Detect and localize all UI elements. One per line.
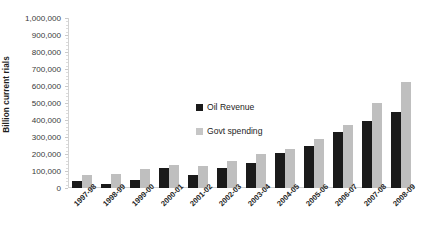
y-axis-tick-label: 700,000 [32,65,61,74]
y-axis-minor-tick-mark [66,106,68,107]
y-axis-minor-tick-mark [66,113,68,114]
y-axis-minor-tick-mark [66,117,68,118]
y-axis-minor-tick-mark [66,83,68,84]
y-axis-minor-tick-mark [66,62,68,63]
y-axis-tick-label: 500,000 [32,99,61,108]
x-axis-tick-labels: 1997-981998-991999-002000-012001-022002-… [68,190,415,243]
x-axis-tick-cell: 2003-04 [242,190,271,243]
y-axis-minor-tick-mark [66,144,68,145]
bar-group [328,18,357,188]
bar-oil-revenue [72,181,82,188]
y-axis-minor-tick-mark [66,181,68,182]
y-axis-minor-tick-mark [66,123,68,124]
y-axis-minor-tick-mark [66,157,68,158]
bar-govt-spending [401,82,411,188]
bar-chart: Billion current rials 1,000,000900,00080… [0,0,423,243]
y-axis-minor-tick-mark [66,38,68,39]
y-axis-minor-tick-mark [66,76,68,77]
bar-oil-revenue [391,112,401,189]
y-axis-minor-tick-mark [66,66,68,67]
bar-group [386,18,415,188]
y-axis-minor-tick-mark [66,32,68,33]
bar-oil-revenue [275,153,285,188]
bar-oil-revenue [101,184,111,188]
bar-group [270,18,299,188]
y-axis-minor-tick-mark [66,49,68,50]
x-axis-tick-cell: 2005-06 [299,190,328,243]
legend-item-govt-spending: Govt spending [196,126,262,136]
y-axis-tick-mark [65,103,68,104]
y-axis-tick-mark [65,171,68,172]
y-axis-tick-mark [65,69,68,70]
y-axis-minor-tick-mark [66,151,68,152]
y-axis-tick-label: 800,000 [32,48,61,57]
bar-govt-spending [314,139,324,188]
y-axis-minor-tick-mark [66,110,68,111]
y-axis-minor-tick-mark [66,100,68,101]
y-axis-minor-tick-mark [66,28,68,29]
y-axis-tick-mark [65,86,68,87]
bar-group [68,18,97,188]
x-axis-tick-cell: 2002-03 [213,190,242,243]
x-axis-tick-cell: 2001-02 [184,190,213,243]
y-axis-minor-tick-mark [66,130,68,131]
y-axis-tick-label: 200,000 [32,150,61,159]
y-axis-tick-label: 300,000 [32,133,61,142]
legend-label-govt-spending: Govt spending [207,126,262,136]
y-axis-minor-tick-mark [66,42,68,43]
y-axis-minor-tick-mark [66,127,68,128]
y-axis-tick-label: 1,000,000 [25,14,61,23]
bar-group [155,18,184,188]
bar-oil-revenue [130,180,140,188]
y-axis-tick-label: 0 [56,184,61,193]
y-axis-minor-tick-mark [66,59,68,60]
bar-group [97,18,126,188]
y-axis-tick-label: 600,000 [32,82,61,91]
bar-oil-revenue [333,132,343,188]
y-axis-title: Billion current rials [0,0,13,188]
y-axis-minor-tick-mark [66,147,68,148]
y-axis-title-text: Billion current rials [2,56,11,133]
chart-legend: Oil Revenue Govt spending [196,102,262,150]
legend-item-oil-revenue: Oil Revenue [196,102,262,112]
y-axis-minor-tick-mark [66,72,68,73]
x-axis-tick-cell: 2006-07 [328,190,357,243]
y-axis-tick-mark [65,137,68,138]
x-axis-tick-cell: 1998-99 [97,190,126,243]
x-axis-tick-cell: 2000-01 [155,190,184,243]
y-axis-minor-tick-mark [66,25,68,26]
y-axis-minor-tick-mark [66,168,68,169]
bar-oil-revenue [304,146,314,189]
bar-oil-revenue [362,121,372,188]
legend-label-oil-revenue: Oil Revenue [207,102,254,112]
y-axis-tick-mark [65,154,68,155]
bar-oil-revenue [188,175,198,188]
y-axis-tick-mark [65,18,68,19]
y-axis-minor-tick-mark [66,21,68,22]
bar-group [357,18,386,188]
y-axis-tick-mark [65,120,68,121]
y-axis-minor-tick-mark [66,55,68,56]
y-axis-tick-mark [65,35,68,36]
x-axis-tick-cell: 1997-98 [68,190,97,243]
plot-area: Oil Revenue Govt spending [68,18,415,188]
y-axis-minor-tick-mark [66,96,68,97]
y-axis-minor-tick-mark [66,45,68,46]
bar-oil-revenue [246,163,256,189]
y-axis-tick-mark [65,52,68,53]
y-axis-minor-tick-mark [66,140,68,141]
bar-govt-spending [372,103,382,188]
y-axis-minor-tick-mark [66,178,68,179]
y-axis-minor-tick-mark [66,164,68,165]
legend-swatch-icon-oil-revenue [196,104,203,111]
y-axis-minor-tick-mark [66,89,68,90]
bar-group [299,18,328,188]
y-axis-tick-label: 900,000 [32,31,61,40]
y-axis-tick-labels: 1,000,000900,000800,000700,000600,000500… [14,18,64,188]
x-axis-tick-cell: 2004-05 [270,190,299,243]
bar-oil-revenue [159,168,169,188]
y-axis-minor-tick-mark [66,134,68,135]
bar-group [126,18,155,188]
x-axis-tick-cell: 1999-00 [126,190,155,243]
bar-oil-revenue [217,168,227,188]
